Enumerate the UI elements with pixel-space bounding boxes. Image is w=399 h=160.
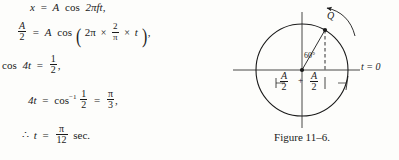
equation-2-arg-variable: t bbox=[135, 26, 138, 38]
equation-3-rhs-denominator: 2 bbox=[50, 65, 57, 75]
equation-4-equals-2: = bbox=[91, 94, 103, 106]
equation-3-equals: = bbox=[34, 59, 46, 71]
equation-3-rhs-fraction: 1 2 bbox=[50, 54, 57, 75]
equation-2-comma: , bbox=[148, 26, 151, 38]
equation-2-cos: cos bbox=[54, 26, 72, 38]
equation-2-times-2: × bbox=[122, 27, 132, 38]
label-segment-right-fraction: A 2 bbox=[310, 71, 318, 92]
label-segment-left-denominator: 2 bbox=[280, 82, 288, 92]
therefore-symbol: ∴ bbox=[22, 129, 31, 141]
equation-4-rhs-denominator: 3 bbox=[107, 100, 114, 110]
textbook-page-fragment: x = A cos 2πft, A 2 = A cos ( 2π × 2 π ×… bbox=[0, 0, 399, 160]
label-time-axis: t = 0 bbox=[361, 61, 381, 72]
equation-block: x = A cos 2πft, A 2 = A cos ( 2π × 2 π ×… bbox=[0, 0, 205, 160]
equation-5-fraction: π 12 bbox=[56, 124, 68, 145]
label-segment-left: A 2 bbox=[279, 71, 289, 92]
equation-line-2: A 2 = A cos ( 2π × 2 π × t ), bbox=[17, 21, 151, 42]
equation-1-cos: cos bbox=[62, 1, 80, 13]
equation-4-rhs-fraction: π 3 bbox=[107, 89, 114, 110]
equation-1-comma: , bbox=[103, 1, 106, 13]
equation-line-1: x = A cos 2πft, bbox=[30, 2, 105, 13]
equation-4-equals-1: = bbox=[39, 94, 51, 106]
label-time-axis-text: t = 0 bbox=[361, 61, 381, 72]
equation-2-lhs-denominator: 2 bbox=[18, 32, 26, 42]
equation-5-equals: = bbox=[40, 129, 52, 141]
label-segment-plus: + bbox=[298, 75, 303, 85]
equation-4-denominator: 2 bbox=[80, 100, 87, 110]
figure-caption: Figure 11–6. bbox=[205, 131, 399, 143]
equation-1-lhs: x bbox=[30, 1, 35, 13]
radius-line-to-q bbox=[302, 30, 325, 70]
center-point bbox=[300, 68, 304, 72]
equation-1-equals: = bbox=[38, 1, 50, 13]
equation-1-argument: 2πft bbox=[83, 1, 103, 13]
equation-4-arccos: cos bbox=[54, 94, 69, 106]
equation-4-lhs: 4t bbox=[28, 94, 37, 106]
equation-3-comma: , bbox=[58, 59, 61, 71]
label-segment-right-denominator: 2 bbox=[310, 82, 318, 92]
equation-5-denominator: 12 bbox=[56, 135, 68, 145]
equation-2-equals: = bbox=[30, 26, 42, 38]
equation-5-unit: sec. bbox=[71, 129, 90, 141]
equation-2-lhs-fraction: A 2 bbox=[18, 21, 26, 42]
equation-4-fraction: 1 2 bbox=[80, 89, 87, 110]
equation-5-lhs: t bbox=[34, 129, 37, 141]
equation-line-4: 4t = cos−1 1 2 = π 3 , bbox=[28, 89, 118, 110]
label-segment-right: A 2 bbox=[309, 71, 319, 92]
point-q-marker bbox=[323, 28, 327, 32]
equation-1-amplitude: A bbox=[53, 1, 60, 13]
equation-2-times-1: × bbox=[99, 27, 109, 38]
label-segment-left-fraction: A 2 bbox=[280, 71, 288, 92]
equation-line-5: ∴ t = π 12 sec. bbox=[22, 124, 90, 145]
equation-2-arg-first: 2π bbox=[85, 26, 96, 38]
equation-3-argument: 4t bbox=[19, 59, 31, 71]
label-point-q: Q bbox=[327, 10, 334, 21]
figure-11-6: Q 60° t = 0 A 2 + A 2 Figure 11–6. bbox=[205, 0, 399, 160]
equation-4-comma: , bbox=[115, 94, 118, 106]
equation-2-arg-denominator: π bbox=[112, 33, 119, 42]
equation-2-arg-fraction: 2 π bbox=[112, 22, 119, 41]
equation-line-3: cos 4t = 1 2 , bbox=[2, 54, 60, 75]
equation-4-exponent: −1 bbox=[69, 93, 76, 101]
equation-2-amplitude: A bbox=[45, 26, 52, 38]
label-angle-60-degrees: 60° bbox=[304, 51, 315, 60]
equation-3-cos: cos bbox=[2, 59, 17, 71]
